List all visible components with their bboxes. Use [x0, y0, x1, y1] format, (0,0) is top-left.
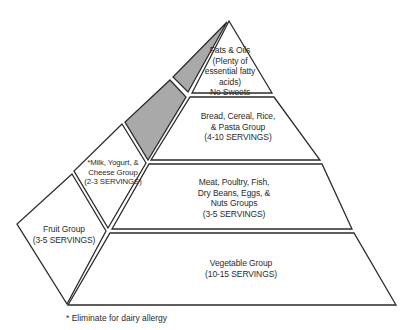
bread-line-2: & Pasta Group [186, 122, 290, 133]
fruit-line-1: Fruit Group [25, 224, 103, 235]
milk-line-1: *Milk, Yogurt, & [78, 158, 148, 168]
tier-vegetable-label: Vegetable Group (10-15 SERVINGS) [186, 258, 296, 279]
bread-line-3: (4-10 SERVINGS) [186, 132, 290, 143]
fats-line-3: essential fatty [204, 66, 256, 77]
tier-fats-label: Fats & Oils (Plenty of essential fatty a… [204, 45, 256, 98]
milk-line-2: Cheese Group [78, 168, 148, 178]
fats-line-5: No Sweets [204, 87, 256, 98]
meat-line-4: (3-5 SERVINGS) [180, 209, 288, 220]
vegetable-line-1: Vegetable Group [186, 258, 296, 269]
tier-meat-label: Meat, Poultry, Fish, Dry Beans, Eggs, & … [180, 177, 288, 219]
fruit-line-2: (3-5 SERVINGS) [25, 235, 103, 246]
dairy-allergy-footnote: * Eliminate for dairy allergy [66, 313, 167, 323]
tier-bread-label: Bread, Cereal, Rice, & Pasta Group (4-10… [186, 111, 290, 143]
meat-line-2: Dry Beans, Eggs, & [180, 188, 288, 199]
vegetable-line-2: (10-15 SERVINGS) [186, 269, 296, 280]
meat-line-3: Nuts Groups [180, 198, 288, 209]
fats-line-2: (Plenty of [204, 56, 256, 67]
milk-line-3: (2-3 SERVINGS) [78, 177, 148, 187]
face-milk-label: *Milk, Yogurt, & Cheese Group (2-3 SERVI… [78, 158, 148, 187]
bread-line-1: Bread, Cereal, Rice, [186, 111, 290, 122]
meat-line-1: Meat, Poultry, Fish, [180, 177, 288, 188]
fats-line-1: Fats & Oils [204, 45, 256, 56]
face-fruit-label: Fruit Group (3-5 SERVINGS) [25, 224, 103, 245]
fats-line-4: acids) [204, 77, 256, 88]
